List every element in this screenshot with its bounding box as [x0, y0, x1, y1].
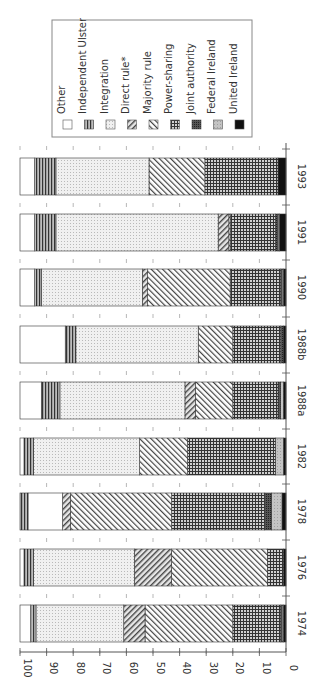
- bar-segment-integration: [56, 214, 218, 251]
- legend-swatch-integration: [106, 120, 115, 129]
- bar-segment-majority-rule: [140, 438, 188, 475]
- bar-segment-independent-ulster: [41, 382, 60, 419]
- bar-segment-independent-ulster: [24, 438, 33, 475]
- bar-segment-federal-ireland: [271, 493, 282, 530]
- bar-segment-majority-rule: [196, 382, 233, 419]
- bar-segment-united-ireland: [282, 493, 286, 530]
- category-label-1976: 1976: [296, 555, 307, 580]
- bar-segment-integration: [56, 158, 149, 195]
- bar-segment-power-sharing: [233, 326, 281, 363]
- bar-segment-power-sharing: [188, 438, 276, 475]
- bar-segment-majority-rule: [172, 549, 268, 586]
- tick-label-30: 30: [208, 662, 219, 675]
- legend-swatch-united: [235, 120, 244, 129]
- bar-segment-independent-ulster: [35, 214, 56, 251]
- category-label-1991: 1991: [296, 220, 307, 245]
- bar-segment-direct-rule: [63, 493, 71, 530]
- bar-segment-direct-rule: [134, 549, 171, 586]
- bar-segment-other: [20, 549, 24, 586]
- bar-segment-joint-authority: [278, 382, 281, 419]
- bar-1988b: [20, 326, 286, 363]
- bar-segment-majority-rule: [149, 158, 205, 195]
- bar-segment-other: [20, 605, 31, 642]
- bar-segment-integration: [36, 605, 124, 642]
- bar-segment-majority-rule: [145, 605, 233, 642]
- bar-segment-other: [20, 214, 35, 251]
- value-axis: 0102030405060708090100: [20, 648, 299, 677]
- tick-label-100: 100: [22, 658, 33, 677]
- bar-segment-power-sharing: [172, 493, 265, 530]
- legend-label-joint: Joint authority: [185, 43, 196, 115]
- bar-segment-other: [20, 158, 35, 195]
- legend-swatch-other: [63, 120, 72, 129]
- tick-label-70: 70: [101, 662, 112, 675]
- legend-label-direct: Direct rule*: [120, 57, 131, 115]
- tick-label-20: 20: [234, 662, 245, 675]
- bars-group: [20, 158, 286, 642]
- legend-label-federal: Federal Ireland: [206, 39, 217, 114]
- category-label-1993: 1993: [296, 164, 307, 189]
- legend-label-power: Power-sharing: [163, 44, 174, 114]
- bar-segment-united-ireland: [279, 214, 286, 251]
- legend-swatch-federal: [214, 120, 223, 129]
- legend-label-integration: Integration: [99, 59, 110, 114]
- bar-segment-direct-rule: [142, 269, 147, 306]
- tick-label-80: 80: [75, 662, 86, 675]
- bar-segment-power-sharing: [233, 382, 278, 419]
- bar-segment-majority-rule: [71, 493, 172, 530]
- stacked-bar-chart: OtherIndependent UlsterIntegrationDirect…: [0, 0, 322, 677]
- bar-segment-power-sharing: [267, 549, 283, 586]
- legend-swatch-majority: [149, 120, 158, 129]
- bar-segment-federal-ireland: [281, 382, 284, 419]
- category-label-1982: 1982: [296, 444, 307, 469]
- bar-segment-power-sharing: [233, 605, 281, 642]
- tick-label-90: 90: [48, 662, 59, 675]
- legend-label-indulster: Independent Ulster: [77, 17, 88, 114]
- bar-1978: [20, 493, 286, 530]
- bar-segment-independent-ulster: [24, 549, 33, 586]
- bar-segment-majority-rule: [148, 269, 230, 306]
- bar-1982: [20, 438, 286, 475]
- bar-1974: [20, 605, 286, 642]
- legend-swatch-power: [171, 120, 180, 129]
- bar-segment-majority-rule: [198, 326, 233, 363]
- tick-label-50: 50: [155, 662, 166, 675]
- bar-segment-federal-ireland: [275, 438, 283, 475]
- legend-swatch-direct: [128, 120, 137, 129]
- bar-segment-integration: [41, 269, 142, 306]
- bar-segment-independent-ulster: [35, 269, 42, 306]
- bar-segment-integration: [33, 438, 139, 475]
- bar-segment-integration: [60, 382, 185, 419]
- bar-segment-other: [20, 326, 65, 363]
- bar-segment-integration: [76, 326, 198, 363]
- bar-segment-joint-authority: [275, 214, 278, 251]
- bar-segment-direct-rule: [218, 214, 229, 251]
- bar-segment-power-sharing: [205, 158, 278, 195]
- bar-segment-independent-ulster: [35, 158, 56, 195]
- bar-segment-joint-authority: [281, 326, 284, 363]
- bar-1976: [20, 549, 286, 586]
- category-label-1988b: 1988b: [296, 329, 307, 361]
- category-label-1990: 1990: [296, 275, 307, 300]
- tick-label-0: 0: [288, 665, 299, 671]
- bar-segment-independent-ulster: [31, 605, 36, 642]
- legend-swatch-joint: [192, 120, 201, 129]
- legend-swatch-indulster: [85, 120, 94, 129]
- chart-legend: OtherIndependent UlsterIntegrationDirect…: [52, 17, 252, 137]
- bar-segment-other: [20, 438, 24, 475]
- legend-label-united: United Ireland: [228, 43, 239, 114]
- bar-segment-power-sharing: [230, 269, 281, 306]
- bar-segment-other: [28, 493, 63, 530]
- category-label-1974: 1974: [296, 611, 307, 636]
- bar-1993: [20, 158, 286, 195]
- tick-label-10: 10: [261, 662, 272, 675]
- bar-segment-joint-authority: [265, 493, 272, 530]
- category-label-1988a: 1988a: [296, 385, 307, 417]
- legend-label-majority: Majority rule: [142, 51, 153, 114]
- bar-1988a: [20, 382, 286, 419]
- bar-segment-other: [20, 382, 41, 419]
- bar-segment-integration: [33, 549, 134, 586]
- tick-label-40: 40: [181, 662, 192, 675]
- bar-1990: [20, 269, 286, 306]
- bar-segment-direct-rule: [185, 382, 196, 419]
